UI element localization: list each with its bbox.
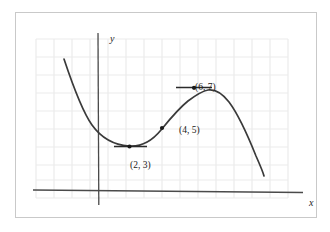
x-axis-label: x [309,198,313,208]
grid-lines [36,39,288,198]
point-label-inflection: (4, 5) [179,126,200,136]
point-inflection [160,126,164,130]
x-axis [33,190,303,193]
y-axis-label: y [110,34,114,44]
figure-frame: y x (2, 3) (4, 5) (6, 7) [15,12,317,218]
plot-canvas [16,13,316,217]
point-label-local-min: (2, 3) [130,161,151,171]
figure-root: y x (2, 3) (4, 5) (6, 7) [0,0,330,232]
point-label-local-max: (6, 7) [195,83,216,93]
point-local-min [127,144,131,148]
y-axis [98,33,99,205]
